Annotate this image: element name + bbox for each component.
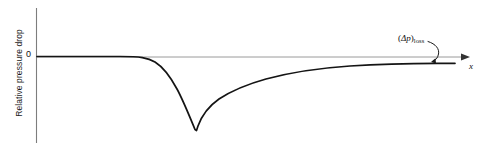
plot-canvas <box>0 0 486 146</box>
x-axis-arrowhead <box>461 53 470 60</box>
loss-subscript: loss <box>414 37 425 44</box>
y-axis-label: Relative pressure drop <box>14 18 24 128</box>
pressure-drop-curve <box>37 57 455 131</box>
pressure-drop-figure: Relative pressure drop 0 x (Δp)loss <box>0 0 486 146</box>
y-axis-zero-tick-label: 0 <box>26 49 31 59</box>
x-axis-label: x <box>469 61 473 71</box>
loss-annotation-arrow <box>428 42 439 62</box>
pressure-loss-annotation: (Δp)loss <box>398 33 424 44</box>
